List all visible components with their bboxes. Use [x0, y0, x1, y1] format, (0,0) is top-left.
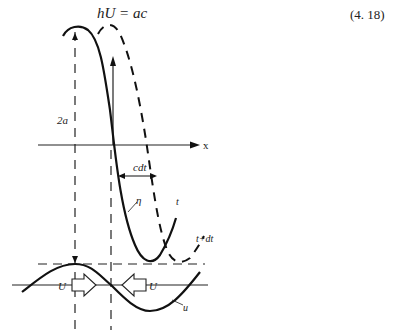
- lower-crest-marker-icon: [72, 256, 78, 263]
- x-axis-arrow-icon: [190, 142, 200, 149]
- flow-left-arrow-icon: [122, 274, 146, 296]
- eta-label: η: [136, 194, 141, 206]
- u-label: u: [183, 302, 188, 313]
- crest-marker-icon: [72, 33, 78, 40]
- cdt-label: cdt: [133, 161, 147, 173]
- velocity-left-label: U: [58, 280, 67, 292]
- velocity-right-label: U: [149, 280, 158, 292]
- y-axis-arrow-icon: [110, 56, 116, 66]
- time-t-dt-label: t+dt: [196, 233, 214, 244]
- cdt-arrow-right-icon: [150, 173, 157, 179]
- x-axis-label: x: [203, 139, 209, 151]
- velocity-u-curve: [22, 264, 200, 311]
- wave-diagram: hU = ac (4. 18) x 2a cdt η t t+dt u U U: [0, 0, 394, 334]
- equation-text: hU = ac: [97, 5, 147, 21]
- equation-number: (4. 18): [350, 7, 385, 22]
- amplitude-label: 2a: [57, 114, 69, 126]
- time-t-label: t: [176, 196, 179, 207]
